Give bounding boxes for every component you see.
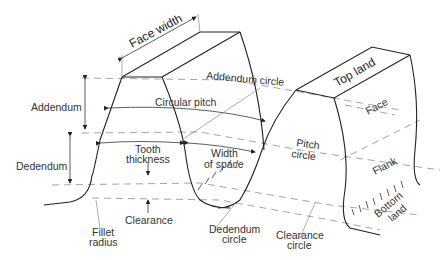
label-pitch-circle-2: circle	[291, 147, 317, 162]
gear-tooth-diagram: Face width Addendum circle Top land Adde…	[0, 0, 440, 260]
circular-pitch-dimension	[108, 107, 265, 121]
dimension-lines	[70, 14, 315, 238]
label-fillet-radius-2: radius	[89, 236, 118, 248]
gear-tooth-left	[44, 32, 264, 208]
label-clearance-circle-2: circle	[287, 239, 312, 251]
label-dedendum: Dedendum	[16, 160, 68, 172]
face-flank-boundary	[340, 120, 420, 160]
label-width-of-space-2: of space	[204, 158, 244, 170]
dedendum-circle-line	[52, 183, 420, 215]
labels: Face width Addendum circle Top land Adde…	[16, 11, 409, 251]
label-face-width: Face width	[127, 11, 185, 51]
label-top-land: Top land	[332, 55, 378, 90]
label-tooth-thickness-2: thickness	[126, 153, 170, 165]
label-clearance: Clearance	[125, 214, 173, 226]
label-addendum-circle: Addendum circle	[206, 69, 285, 88]
label-dedendum-circle-2: circle	[222, 233, 247, 245]
label-flank: Flank	[370, 154, 399, 177]
label-circular-pitch: Circular pitch	[155, 96, 216, 108]
label-addendum: Addendum	[31, 101, 82, 113]
